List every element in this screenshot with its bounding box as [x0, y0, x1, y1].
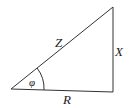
vertical-side-label: X — [114, 44, 124, 59]
hypotenuse-label: Z — [55, 35, 63, 50]
horizontal-side-line — [11, 89, 113, 92]
angle-arc — [37, 68, 44, 90]
horizontal-side-label: R — [62, 92, 71, 107]
angle-label: φ — [29, 76, 35, 88]
impedance-triangle-diagram: Z X R φ — [0, 0, 131, 108]
